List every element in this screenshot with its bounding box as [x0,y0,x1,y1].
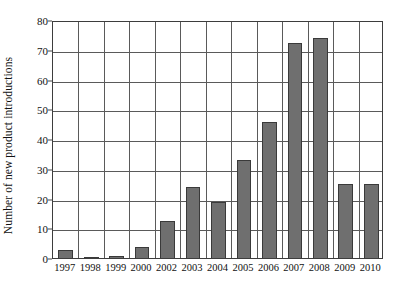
bar-chart-figure: Number of new product introductions 0102… [0,0,400,291]
bar [338,184,353,259]
bar [211,202,226,259]
gridline-vertical [104,22,105,258]
x-tick-label: 2006 [256,261,281,275]
gridline-vertical [359,22,360,258]
x-tick-label: 1998 [77,261,102,275]
x-axis-tick-labels: 1997199819992000200220032004200520062007… [52,261,383,279]
y-tick-label: 50 [18,105,48,115]
gridline-vertical [180,22,181,258]
x-tick-label: 2007 [281,261,306,275]
y-tick-label: 70 [18,46,48,56]
y-axis-tick-labels: 01020304050607080 [18,21,48,259]
gridline-vertical [308,22,309,258]
bar [364,184,379,259]
x-tick-label: 2008 [307,261,332,275]
y-tick-label: 0 [18,254,48,264]
gridline-vertical [333,22,334,258]
y-tick-label: 60 [18,76,48,86]
x-tick-label: 2002 [154,261,179,275]
bar [84,257,99,259]
gridline-vertical [257,22,258,258]
gridline-vertical [78,22,79,258]
y-tick-label: 10 [18,224,48,234]
y-tick-label: 40 [18,135,48,145]
gridline-vertical [282,22,283,258]
x-tick-label: 1999 [103,261,128,275]
bar [109,256,124,259]
gridline-vertical [129,22,130,258]
bar [313,38,328,259]
bar [135,247,150,259]
x-tick-label: 2005 [230,261,255,275]
plot-area [52,21,383,259]
x-tick-label: 2010 [358,261,383,275]
gridline-vertical [155,22,156,258]
x-tick-label: 1997 [52,261,77,275]
bar [186,187,201,259]
x-tick-label: 2003 [179,261,204,275]
gridline-vertical [206,22,207,258]
bar [160,221,175,259]
x-tick-label: 2004 [205,261,230,275]
y-tick-label: 80 [18,16,48,26]
bar [262,122,277,259]
bar [288,43,303,259]
bar [237,160,252,259]
bar [58,250,73,259]
y-tick-label: 30 [18,165,48,175]
gridline-vertical [231,22,232,258]
y-axis-title: Number of new product introductions [0,0,16,291]
x-tick-label: 2009 [332,261,357,275]
x-tick-label: 2000 [128,261,153,275]
y-tick-label: 20 [18,195,48,205]
